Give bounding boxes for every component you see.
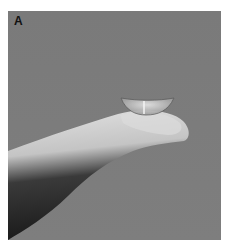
panel-label: A	[14, 14, 23, 28]
photo-panel: A	[8, 11, 221, 240]
contact-lens-photo	[8, 11, 221, 240]
